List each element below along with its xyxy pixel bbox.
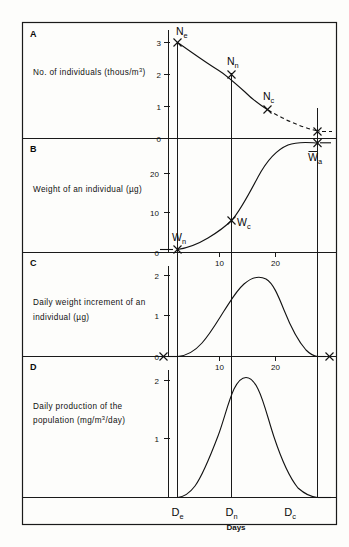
panel-b-label-wc: Wc bbox=[237, 216, 251, 231]
population-dynamics-figure: A No. of individuals (thous/m3) 3 2 1 0 bbox=[0, 0, 349, 547]
figure-outer-frame bbox=[23, 23, 337, 525]
panel-a-ticklabel-3: 3 bbox=[157, 39, 162, 48]
panel-a-caption-main: No. of individuals (thous/m bbox=[33, 68, 139, 77]
panel-c-ticklabel-0: 0 bbox=[155, 353, 160, 362]
panel-c: C Daily weight increment of an individua… bbox=[30, 258, 334, 372]
panel-b: B Weight of an individual (µg) 20 10 0 bbox=[30, 139, 331, 268]
panel-c-ticklabel-1: 1 bbox=[155, 312, 160, 321]
panel-c-ticklabel-2: 2 bbox=[155, 272, 160, 281]
day-label-dn-main: D bbox=[225, 506, 233, 518]
panel-c-xticklabel-10: 10 bbox=[215, 363, 224, 372]
panel-c-curve bbox=[178, 277, 318, 356]
panel-d-caption-line2: population (mg/m3/day) bbox=[33, 415, 125, 425]
panel-a-curve-dashed bbox=[268, 110, 320, 132]
panel-b-label-wc-sub: c bbox=[247, 222, 251, 231]
panel-b-label-wc-main: W bbox=[237, 216, 247, 228]
panel-b-label-wn: Wn bbox=[172, 231, 186, 246]
panel-b-label-wa-main: W bbox=[308, 151, 318, 163]
panel-b-label-wn-sub: n bbox=[182, 237, 186, 246]
day-label-dc-main: D bbox=[284, 506, 292, 518]
panel-b-ticklabel-20: 20 bbox=[150, 170, 159, 179]
day-label-dn: Dn bbox=[225, 506, 237, 521]
panel-d-caption-line1: Daily production of the bbox=[33, 402, 123, 411]
panel-a-label-nc-main: N bbox=[263, 90, 271, 102]
day-label-de: De bbox=[171, 506, 183, 521]
panel-a: A No. of individuals (thous/m3) 3 2 1 0 bbox=[30, 25, 332, 144]
panel-a-ticklabel-2: 2 bbox=[157, 71, 162, 80]
panel-d-caption-line2-tail: /day) bbox=[105, 416, 125, 425]
panel-a-caption-tail: ) bbox=[143, 68, 146, 77]
panel-b-ticklabel-10: 10 bbox=[150, 209, 159, 218]
panel-d: D Daily production of the population (mg… bbox=[30, 362, 331, 498]
panel-a-caption: No. of individuals (thous/m3) bbox=[33, 67, 146, 77]
x-axis-title: Days bbox=[226, 523, 246, 532]
panel-b-ticklabel-0: 0 bbox=[155, 249, 160, 258]
panel-b-label-wa-sub: a bbox=[318, 157, 323, 166]
panel-b-curve bbox=[178, 142, 318, 249]
panel-a-ticklabel-0: 0 bbox=[157, 135, 162, 144]
day-label-dc-sub: c bbox=[292, 512, 296, 521]
panel-a-label-nc: Nc bbox=[263, 90, 275, 105]
day-label-dc: Dc bbox=[284, 506, 296, 521]
panel-a-label-nc-sub: c bbox=[271, 96, 275, 105]
day-label-de-main: D bbox=[171, 506, 179, 518]
panel-b-caption: Weight of an individual (µg) bbox=[33, 185, 142, 194]
panel-c-letter: C bbox=[30, 258, 37, 268]
panel-a-curve-solid bbox=[178, 43, 269, 111]
figure-container: A No. of individuals (thous/m3) 3 2 1 0 bbox=[0, 0, 349, 547]
panel-d-ticklabel-2: 2 bbox=[155, 377, 160, 386]
panel-a-label-nn: Nn bbox=[227, 55, 239, 70]
panel-c-caption-line1: Daily weight increment of an bbox=[33, 298, 146, 307]
panel-a-label-nn-sub: n bbox=[235, 61, 239, 70]
panel-c-caption-line2: individual (µg) bbox=[33, 313, 89, 322]
panel-c-xticklabel-20: 20 bbox=[271, 363, 280, 372]
panel-b-letter: B bbox=[30, 144, 37, 154]
panel-d-letter: D bbox=[30, 362, 37, 372]
panel-b-xticklabel-10: 10 bbox=[215, 259, 224, 268]
panel-a-marker-nc bbox=[264, 106, 272, 114]
panel-d-ticklabel-1: 1 bbox=[155, 435, 160, 444]
day-label-dn-sub: n bbox=[233, 512, 237, 521]
panel-a-label-ne-main: N bbox=[176, 25, 184, 37]
panel-a-letter: A bbox=[30, 29, 37, 39]
panel-a-label-ne-sub: e bbox=[184, 31, 188, 40]
day-label-de-sub: e bbox=[179, 512, 183, 521]
panel-b-xticklabel-20: 20 bbox=[271, 259, 280, 268]
panel-b-label-wa: Wa bbox=[308, 151, 323, 166]
panel-d-curve bbox=[178, 378, 318, 498]
panel-d-caption-line2-main: population (mg/m bbox=[33, 416, 102, 425]
panel-a-label-ne: Ne bbox=[176, 25, 188, 40]
panel-a-label-nn-main: N bbox=[227, 55, 235, 67]
panel-a-ticklabel-1: 1 bbox=[157, 103, 162, 112]
x-axis-strip: De Dn Dc Days bbox=[171, 506, 296, 532]
panel-b-label-wn-main: W bbox=[172, 231, 182, 243]
